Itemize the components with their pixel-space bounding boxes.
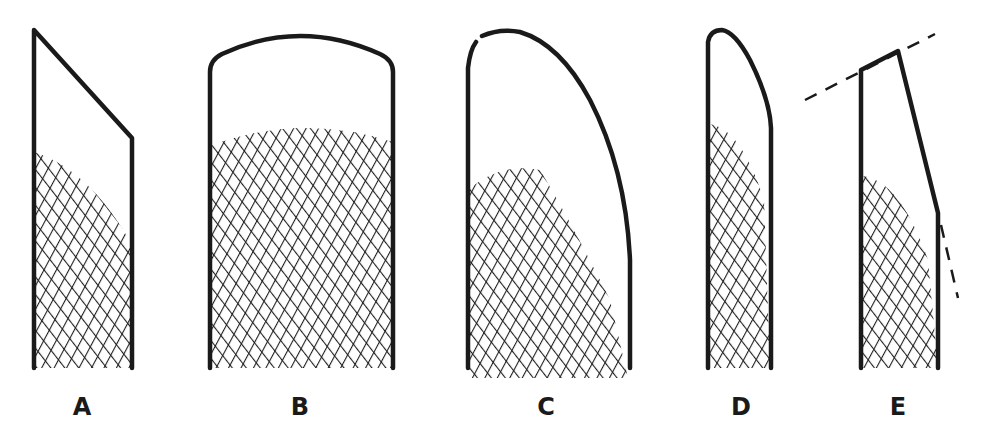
figure-e (805, 34, 958, 380)
figure-d-hatching (700, 118, 780, 380)
diagram-canvas (0, 0, 990, 440)
figure-e-hatching (855, 170, 945, 380)
figure-e-dashed-extension-right (941, 225, 958, 298)
figure-c-hatching (460, 150, 640, 385)
figure-label-e: E (890, 393, 906, 421)
figure-label-d: D (731, 393, 751, 421)
figure-d (700, 30, 780, 380)
figure-a-hatching (20, 140, 145, 380)
figure-b-hatching (200, 110, 400, 380)
figure-c (460, 31, 640, 385)
figure-b (200, 36, 400, 380)
figure-e-dashed-extension-top (805, 34, 935, 100)
figure-label-a: A (73, 393, 92, 421)
figure-a (20, 30, 145, 380)
figure-label-c: C (537, 393, 555, 421)
figure-label-b: B (291, 393, 309, 421)
